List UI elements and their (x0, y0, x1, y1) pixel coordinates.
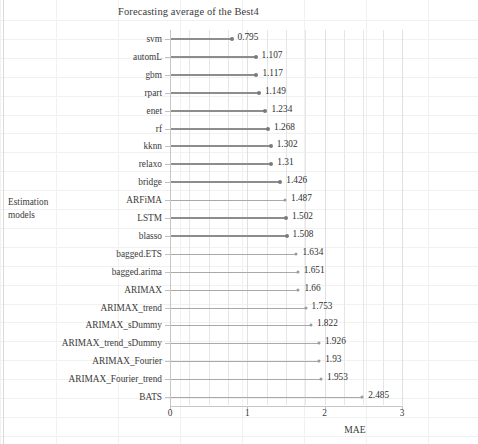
value-marker-dot[interactable] (284, 216, 288, 220)
chart-title: Forecasting average of the Best4 (118, 6, 259, 17)
category-label: ARIMAX (2, 281, 162, 299)
value-marker-dot[interactable] (285, 234, 289, 238)
x-axis-title: MAE (0, 424, 478, 435)
category-label: svm (2, 30, 162, 48)
value-bar[interactable] (170, 181, 280, 183)
value-label: 1.953 (327, 372, 348, 382)
value-label: 1.502 (292, 211, 313, 221)
value-bar[interactable] (170, 217, 286, 219)
y-axis-title-line2: models (8, 209, 88, 222)
category-label: bagged.arima (2, 263, 162, 281)
bar-row: bridge1.426 (0, 173, 478, 191)
value-marker-dot[interactable] (263, 109, 267, 113)
value-bar[interactable] (170, 272, 298, 273)
category-label: ARIMAX_Fourier (2, 352, 162, 370)
value-bar[interactable] (170, 361, 319, 362)
category-label: ARIMAX_trend_sDummy (2, 334, 162, 352)
value-label: 1.107 (262, 50, 283, 60)
value-bar[interactable] (170, 38, 232, 40)
value-bar[interactable] (170, 325, 311, 326)
x-axis-tick-label: 1 (245, 408, 250, 418)
bar-row: ARIMAX_Fourier_trend1.953 (0, 370, 478, 388)
value-bar[interactable] (170, 56, 256, 58)
bar-row: ARIMAX_trend_sDummy1.926 (0, 334, 478, 352)
value-bar[interactable] (170, 128, 268, 130)
value-bar[interactable] (170, 397, 362, 398)
value-label: 1.31 (277, 157, 293, 167)
value-marker-dot[interactable] (278, 180, 282, 184)
bar-row: ARIMAX_Fourier1.93 (0, 352, 478, 370)
value-marker-dot[interactable] (320, 378, 323, 381)
value-bar[interactable] (170, 343, 319, 344)
value-label: 1.149 (265, 86, 286, 96)
value-marker-dot[interactable] (257, 91, 261, 95)
category-label: ARIMAX_Fourier_trend (2, 370, 162, 388)
category-label: rf (2, 120, 162, 138)
value-marker-dot[interactable] (269, 144, 273, 148)
y-axis-title-line1: Estimation (8, 196, 88, 209)
forecasting-mae-bar-chart: Forecasting average of the Best4 svm0.79… (0, 0, 478, 444)
category-label: blasso (2, 227, 162, 245)
value-marker-dot[interactable] (318, 360, 321, 363)
value-label: 1.117 (262, 68, 283, 78)
category-label: BATS (2, 388, 162, 406)
category-label: ARIMAX_trend (2, 299, 162, 317)
value-bar[interactable] (170, 254, 296, 255)
bar-row: ARIMAX_sDummy1.822 (0, 316, 478, 334)
category-label: relaxo (2, 155, 162, 173)
value-bar[interactable] (170, 92, 259, 94)
value-bar[interactable] (170, 308, 306, 309)
value-label: 1.93 (325, 354, 341, 364)
value-marker-dot[interactable] (297, 288, 300, 291)
category-label: bagged.ETS (2, 245, 162, 263)
value-label: 1.234 (271, 104, 292, 114)
category-label: gbm (2, 66, 162, 84)
value-label: 1.508 (293, 229, 314, 239)
y-axis-title: Estimation models (8, 196, 88, 222)
value-marker-dot[interactable] (230, 37, 234, 41)
value-marker-dot[interactable] (284, 199, 287, 202)
value-bar[interactable] (170, 74, 256, 76)
value-marker-dot[interactable] (254, 73, 258, 77)
x-axis-tick-label: 3 (400, 408, 405, 418)
category-label: kknn (2, 137, 162, 155)
bar-row: svm0.795 (0, 30, 478, 48)
x-axis-line (170, 406, 402, 407)
value-bar[interactable] (170, 145, 271, 147)
category-label: enet (2, 102, 162, 120)
value-bar[interactable] (170, 235, 287, 237)
value-label: 1.302 (277, 139, 298, 149)
bar-row: enet1.234 (0, 102, 478, 120)
bar-row: blasso1.508 (0, 227, 478, 245)
value-bar[interactable] (170, 290, 298, 291)
bar-row: rpart1.149 (0, 84, 478, 102)
bar-row: bagged.ETS1.634 (0, 245, 478, 263)
y-axis-line (170, 30, 171, 407)
bar-row: kknn1.302 (0, 137, 478, 155)
category-label: automL (2, 48, 162, 66)
value-marker-dot[interactable] (296, 270, 299, 273)
x-axis-tick-label: 0 (168, 408, 173, 418)
bar-row: relaxo1.31 (0, 155, 478, 173)
category-label: ARIMAX_sDummy (2, 316, 162, 334)
value-marker-dot[interactable] (295, 252, 298, 255)
value-bar[interactable] (170, 200, 285, 201)
value-label: 1.487 (291, 193, 312, 203)
value-bar[interactable] (170, 110, 265, 112)
value-marker-dot[interactable] (266, 127, 270, 131)
value-bar[interactable] (170, 379, 321, 380)
value-bar[interactable] (170, 163, 271, 165)
value-marker-dot[interactable] (361, 396, 364, 399)
value-marker-dot[interactable] (317, 342, 320, 345)
value-label: 1.753 (312, 301, 333, 311)
value-marker-dot[interactable] (304, 306, 307, 309)
value-label: 1.822 (317, 318, 338, 328)
category-label: bridge (2, 173, 162, 191)
value-marker-dot[interactable] (269, 162, 273, 166)
value-label: 1.926 (325, 336, 346, 346)
value-marker-dot[interactable] (309, 324, 312, 327)
x-axis-title-text: MAE (344, 424, 365, 435)
value-marker-dot[interactable] (254, 55, 258, 59)
value-label: 0.795 (238, 32, 259, 42)
value-label: 2.485 (368, 390, 389, 400)
